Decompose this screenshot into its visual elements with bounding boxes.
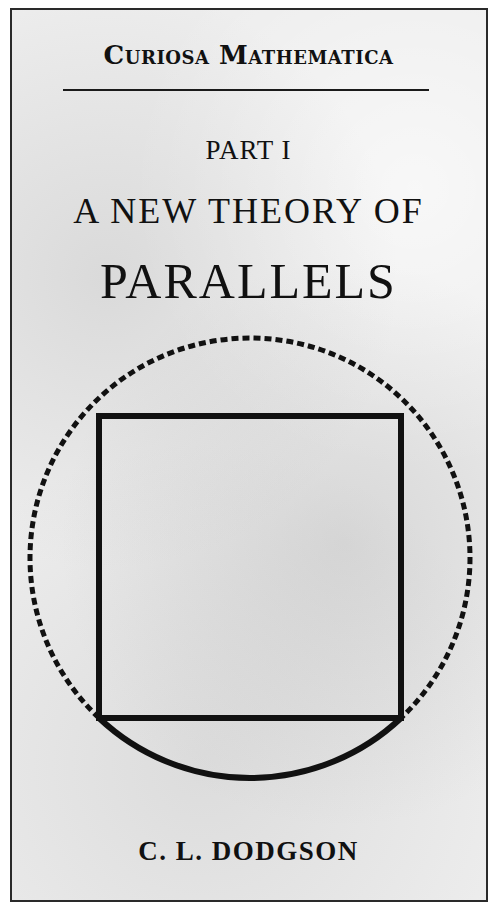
inscribed-square <box>99 416 401 718</box>
author-name: C. L. DODGSON <box>0 836 497 867</box>
solid-circle-arc <box>99 718 401 778</box>
geometry-figure <box>0 0 497 917</box>
